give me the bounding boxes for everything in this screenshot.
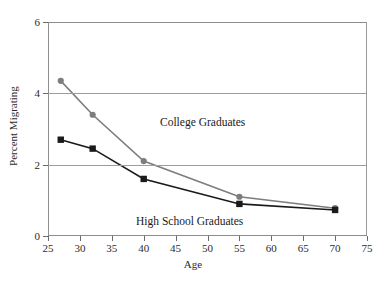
series-annotation-high-school: High School Graduates	[136, 215, 243, 227]
y-axis: 0246	[22, 22, 48, 236]
x-tick-label: 60	[266, 243, 277, 254]
data-point-marker	[58, 137, 64, 143]
x-tick-label: 25	[43, 243, 54, 254]
data-point-marker	[332, 207, 338, 213]
y-tick-label: 6	[22, 17, 40, 28]
x-tick	[112, 236, 113, 241]
x-tick	[176, 236, 177, 241]
series-line-square	[61, 140, 335, 210]
plot-frame-right	[366, 22, 367, 236]
x-tick-label: 65	[298, 243, 309, 254]
y-tick-label: 4	[22, 88, 40, 99]
x-tick-label: 45	[170, 243, 181, 254]
y-tick-label: 2	[22, 159, 40, 170]
x-tick	[144, 236, 145, 241]
x-tick-label: 75	[362, 243, 373, 254]
data-point-marker	[141, 176, 147, 182]
x-tick-label: 55	[234, 243, 245, 254]
plot-frame-left	[48, 22, 49, 236]
migration-line-chart: 0246 College Graduates High School Gradu…	[0, 0, 386, 281]
x-tick	[48, 236, 49, 241]
x-tick-label: 40	[138, 243, 149, 254]
gridline	[48, 165, 367, 166]
x-tick-label: 70	[330, 243, 341, 254]
x-tick	[271, 236, 272, 241]
data-point-marker	[90, 112, 96, 118]
x-tick-label: 35	[106, 243, 117, 254]
gridline	[48, 93, 367, 94]
x-tick	[208, 236, 209, 241]
x-tick	[239, 236, 240, 241]
x-tick-label: 30	[74, 243, 85, 254]
plot-area: College Graduates High School Graduates	[48, 22, 367, 236]
data-point-marker	[89, 145, 95, 151]
series-line-circle	[61, 81, 335, 208]
x-tick	[335, 236, 336, 241]
series-annotation-college: College Graduates	[160, 116, 245, 128]
x-axis-title: Age	[0, 258, 386, 270]
y-axis-title: Percent Migrating	[7, 66, 19, 186]
data-point-marker	[236, 194, 242, 200]
data-point-marker	[236, 201, 242, 207]
x-tick	[367, 236, 368, 241]
y-tick-label: 0	[22, 231, 40, 242]
plot-frame-top	[48, 22, 367, 23]
series-layer	[48, 22, 367, 236]
x-tick	[80, 236, 81, 241]
data-point-marker	[58, 78, 64, 84]
data-point-marker	[141, 158, 147, 164]
x-tick	[303, 236, 304, 241]
x-tick-label: 50	[202, 243, 213, 254]
